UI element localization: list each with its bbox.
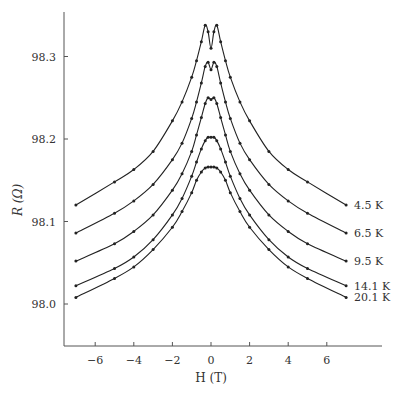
data-point: [215, 65, 218, 68]
curve-9.5K: [76, 98, 346, 261]
curve-14.1K: [76, 137, 346, 286]
x-tick-label: −2: [164, 354, 180, 367]
data-point: [219, 171, 222, 174]
data-point: [113, 242, 116, 245]
data-point: [215, 102, 218, 105]
data-point: [210, 166, 213, 169]
data-point: [195, 133, 198, 136]
data-point: [171, 158, 174, 161]
data-point: [229, 191, 232, 194]
x-axis-label: H (T): [195, 371, 227, 385]
y-tick-label: 98.0: [32, 298, 57, 311]
data-point: [200, 147, 203, 150]
data-point: [152, 248, 155, 251]
data-point: [132, 255, 135, 258]
data-point: [306, 267, 309, 270]
data-point: [287, 230, 290, 233]
data-point: [212, 30, 215, 33]
data-point: [190, 191, 193, 194]
data-point: [207, 166, 210, 169]
data-point: [345, 204, 348, 207]
data-point: [267, 238, 270, 241]
series-label: 9.5 K: [354, 255, 384, 268]
data-point: [74, 296, 77, 299]
data-point: [229, 150, 232, 153]
data-point: [152, 183, 155, 186]
data-point: [204, 139, 207, 142]
data-point: [204, 166, 207, 169]
data-point: [74, 260, 77, 263]
data-point: [200, 116, 203, 119]
data-point: [219, 81, 222, 84]
data-point: [113, 267, 116, 270]
data-point: [238, 172, 241, 175]
data-point: [238, 100, 241, 103]
data-point: [345, 296, 348, 299]
data-point: [215, 139, 218, 142]
data-point: [345, 284, 348, 287]
data-point: [74, 284, 77, 287]
data-point: [306, 212, 309, 215]
data-point: [210, 98, 213, 101]
data-point: [248, 119, 251, 122]
data-point: [181, 142, 184, 145]
data-point: [195, 59, 198, 62]
curve-20.1K: [76, 167, 346, 297]
data-point: [224, 59, 227, 62]
data-point: [190, 117, 193, 120]
data-point: [219, 147, 222, 150]
data-point: [229, 117, 232, 120]
axes: 98.098.198.298.3−6−4−20246: [32, 12, 383, 367]
data-point: [248, 189, 251, 192]
data-point: [238, 142, 241, 145]
magnetoresistance-chart: 98.098.198.298.3−6−4−20246 4.5 K6.5 K9.5…: [0, 0, 398, 399]
data-point: [212, 166, 215, 169]
data-point: [113, 180, 116, 183]
data-point: [345, 232, 348, 235]
series-label: 6.5 K: [354, 227, 384, 240]
data-point: [200, 40, 203, 43]
curve-6.5K: [76, 62, 346, 233]
data-point: [238, 210, 241, 213]
data-point: [306, 180, 309, 183]
data-point: [132, 168, 135, 171]
data-point: [215, 166, 218, 169]
data-point: [287, 255, 290, 258]
data-point: [229, 175, 232, 178]
data-point: [224, 100, 227, 103]
data-point: [181, 197, 184, 200]
x-tick-label: 2: [246, 354, 253, 367]
data-point: [74, 204, 77, 207]
data-point: [287, 168, 290, 171]
y-tick-label: 98.1: [32, 216, 57, 229]
data-point: [207, 136, 210, 139]
data-point: [219, 116, 222, 119]
data-point: [181, 100, 184, 103]
data-point: [210, 68, 213, 71]
data-point: [113, 277, 116, 280]
data-point: [248, 226, 251, 229]
data-point: [200, 81, 203, 84]
data-point: [306, 242, 309, 245]
data-point: [204, 65, 207, 68]
data-point: [195, 179, 198, 182]
x-tick-label: −6: [87, 354, 103, 367]
data-point: [224, 179, 227, 182]
data-point: [190, 76, 193, 79]
data-point: [132, 230, 135, 233]
data-point: [212, 96, 215, 99]
data-point: [267, 183, 270, 186]
data-point: [171, 213, 174, 216]
data-point: [207, 96, 210, 99]
data-point: [212, 136, 215, 139]
data-point: [200, 171, 203, 174]
data-point: [195, 161, 198, 164]
series-label: 4.5 K: [354, 199, 384, 212]
y-tick-label: 98.3: [32, 51, 57, 64]
data-point: [267, 213, 270, 216]
data-point: [190, 175, 193, 178]
data-point: [212, 61, 215, 64]
curves: [74, 24, 347, 299]
data-point: [345, 260, 348, 263]
data-point: [287, 199, 290, 202]
